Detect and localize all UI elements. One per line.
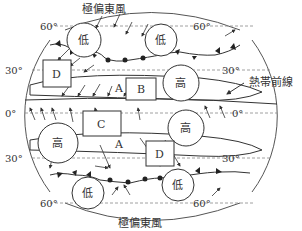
lat-right-60n: 60° [193,21,211,32]
high-w-label: 高 [52,136,63,150]
point-a-south: A [114,138,124,151]
low-ne-label: 低 [155,34,166,47]
bottom-label: 極偏東風 [118,216,162,230]
low-nw-label: 低 [78,34,89,47]
lat-right-30n: 30° [222,65,240,76]
lat-left-30n: 30° [5,65,23,76]
lat-right-30s: 30° [222,153,240,164]
itcz-pointer [227,83,244,94]
high-ne-label: 高 [175,76,186,90]
low-se-label: 低 [172,179,183,192]
wind-arrows [30,14,235,196]
box-d-north-label: D [52,68,61,81]
high-e-label: 高 [180,121,191,135]
point-a-north: A [114,82,124,95]
lat-left-30s: 30° [5,153,23,164]
lat-right-60s: 60° [193,198,211,209]
itcz-label: 熱帯前線 [249,75,293,89]
global-circulation-diagram: 極偏東風 極偏東風 熱帯前線 60° 30° 0° 30° 60° 60° 30… [0,0,302,231]
low-sw-label: 低 [82,187,93,200]
top-label: 極偏東風 [82,2,126,16]
box-b-label: B [137,83,145,96]
lat-left-60s: 60° [40,198,58,209]
box-d-south-label: D [155,148,164,161]
lat-left-0: 0° [5,108,16,119]
lat-right-0: 0° [232,108,243,119]
box-c-label: C [97,118,105,131]
lat-left-60n: 60° [40,21,58,32]
